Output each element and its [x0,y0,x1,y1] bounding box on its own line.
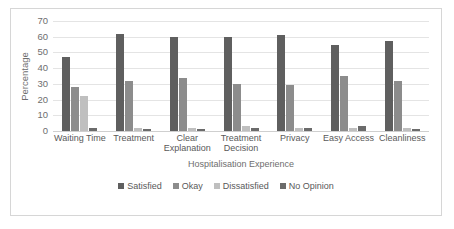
legend-swatch-icon [118,183,124,189]
bar [251,128,259,131]
y-axis-tick-label: 30 [37,79,48,89]
bar [143,129,151,131]
bar [394,81,402,131]
bar [277,35,285,131]
bar [80,96,88,131]
x-axis-tick-labels: Waiting TimeTreatmentClear ExplanationTr… [53,133,429,154]
plot-area: 010203040506070 [53,21,429,131]
legend-item[interactable]: Okay [173,181,203,191]
bar [242,126,250,131]
bar [412,129,420,131]
y-axis-tick-label: 10 [37,111,48,121]
x-axis-tick-label: Privacy [268,133,322,154]
bar [125,81,133,131]
y-axis-tick-label: 70 [37,16,48,26]
bar [304,128,312,131]
bar-group [107,21,161,131]
y-axis-tick-label: 60 [37,32,48,42]
bar-group [322,21,376,131]
y-axis-title: Percentage [17,21,31,131]
bar [340,76,348,131]
bar [358,126,366,131]
legend-swatch-icon [214,183,220,189]
legend-item[interactable]: Dissatisfied [214,181,269,191]
bars-layer [53,21,429,131]
x-axis-tick-label: Easy Access [322,133,376,154]
bar-group [53,21,107,131]
x-axis-tick-label: Clear Explanation [160,133,214,154]
legend-item-label: Dissatisfied [223,181,269,191]
bar [62,57,70,131]
x-axis-tick-label: Treatment Decision [214,133,268,154]
x-axis-tick-label: Waiting Time [53,133,107,154]
bar [295,128,303,131]
chart-container: Percentage 010203040506070 Waiting TimeT… [10,8,442,216]
legend-swatch-icon [173,183,179,189]
bar [224,37,232,131]
legend-item[interactable]: Satisfied [118,181,162,191]
bar [134,128,142,131]
bar-group [268,21,322,131]
bar [89,128,97,131]
x-axis-title: Hospitalisation Experience [53,159,429,169]
bar [403,128,411,131]
gridline: 0 [53,131,429,132]
chart-legend: SatisfiedOkayDissatisfiedNo Opinion [11,181,441,191]
bar [286,85,294,131]
bar [385,41,393,131]
y-axis-tick-label: 0 [43,126,48,136]
y-axis-tick-label: 50 [37,48,48,58]
x-axis-tick-label: Treatment [107,133,161,154]
bar [188,128,196,131]
bar [116,34,124,131]
y-axis-title-label: Percentage [19,52,30,101]
legend-item-label: No Opinion [289,181,334,191]
bar-group [214,21,268,131]
bar [170,37,178,131]
y-axis-tick-label: 20 [37,95,48,105]
legend-item-label: Okay [182,181,203,191]
y-axis-tick-label: 40 [37,63,48,73]
bar [331,45,339,131]
bar [179,78,187,131]
x-axis-tick-label: Cleanliness [375,133,429,154]
bar [233,84,241,131]
bar-group [160,21,214,131]
bar-group [375,21,429,131]
legend-item-label: Satisfied [127,181,162,191]
bar [71,87,79,131]
legend-swatch-icon [280,183,286,189]
bar [197,129,205,131]
legend-item[interactable]: No Opinion [280,181,334,191]
bar [349,128,357,131]
